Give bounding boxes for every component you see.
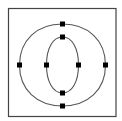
glyph-outline-diagram [0,0,122,121]
control-point [60,91,65,96]
inner-contour [47,37,79,93]
control-point [44,63,49,68]
control-point [60,35,65,40]
control-point [76,63,81,68]
control-point [17,63,22,68]
control-point [103,63,108,68]
control-point [60,104,65,109]
control-points [17,22,108,109]
control-point [60,22,65,27]
